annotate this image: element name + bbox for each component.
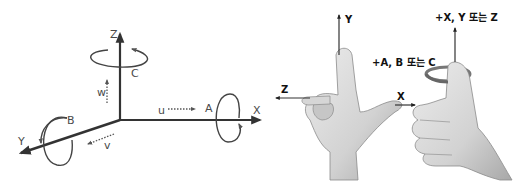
thumb-rotary-label: +A, B 또는 C <box>372 57 436 68</box>
axis-diagram: Z X Y C A B w u v Y Z <box>0 0 519 186</box>
rot-a-label: A <box>205 102 213 115</box>
lin-u-label: u <box>158 104 165 117</box>
hand-y-label: Y <box>344 14 353 25</box>
thumb-linear-label: +X, Y 또는 Z <box>435 12 498 23</box>
x-axis-label: X <box>253 104 261 117</box>
rotation-a-icon <box>216 94 240 142</box>
right-hand-panel: Y Z X +X, Y 또는 Z +A, B 또는 C <box>276 12 512 180</box>
rot-b-label: B <box>67 114 75 127</box>
diagram-svg: Z X Y C A B w u v Y Z <box>0 0 519 186</box>
hand-three-axes-illustration: Y Z X <box>276 14 415 180</box>
z-axis-label: Z <box>110 28 118 41</box>
hand-x-label: X <box>397 91 405 102</box>
lin-v-label: v <box>104 139 111 152</box>
hand-z-label: Z <box>281 84 288 95</box>
y-axis-label: Y <box>17 135 25 148</box>
left-axes-panel: Z X Y C A B w u v <box>17 28 261 165</box>
rot-c-label: C <box>131 67 139 80</box>
lin-w-label: w <box>97 86 106 99</box>
hand-thumb-rule-illustration: +X, Y 또는 Z +A, B 또는 C <box>372 12 512 180</box>
